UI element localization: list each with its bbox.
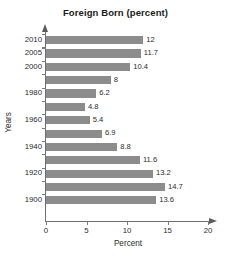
y-axis-tick-mark [42, 61, 46, 62]
x-axis-tick-label: 20 [196, 226, 220, 236]
bar-value-label: 6.9 [105, 128, 116, 138]
bar-row: 11.6 [0, 154, 231, 167]
y-axis-title: Years [4, 101, 13, 145]
x-axis-tick-label: 5 [75, 226, 99, 236]
bar [46, 76, 111, 84]
x-axis-tick-mark [168, 221, 169, 225]
bar-value-label: 8 [114, 75, 118, 85]
y-axis-tick-mark [42, 114, 46, 115]
bar [46, 183, 165, 191]
bar-value-label: 6.2 [99, 88, 110, 98]
y-axis-tick-label: 1900 [25, 195, 42, 205]
x-axis-tick-label: 15 [156, 226, 180, 236]
bar [46, 103, 85, 111]
y-axis-tick-label: 1940 [25, 142, 42, 152]
bar-value-label: 11.6 [143, 155, 157, 165]
bar [46, 170, 153, 178]
y-axis-tick-mark [42, 88, 46, 89]
bar-row: 8 [0, 74, 231, 87]
bar-value-label: 4.8 [88, 102, 99, 112]
y-axis-tick-mark [42, 47, 46, 48]
y-axis-tick-mark [42, 34, 46, 35]
bar [46, 143, 117, 151]
bar [46, 49, 141, 57]
bar-value-label: 12 [146, 35, 154, 45]
y-axis-tick-mark [42, 128, 46, 129]
y-axis-tick-label: 1920 [25, 168, 42, 178]
bar [46, 156, 140, 164]
bar [46, 116, 90, 124]
x-axis-arrow-icon [209, 218, 217, 224]
bar-value-label: 13.6 [159, 195, 174, 205]
x-axis-tick-mark [87, 221, 88, 225]
y-axis-arrow-icon [42, 24, 48, 32]
y-axis-tick-mark [42, 168, 46, 169]
bar [46, 130, 102, 138]
chart-title: Foreign Born (percent) [0, 7, 231, 18]
bar [46, 89, 96, 97]
x-axis-title: Percent [46, 239, 210, 248]
x-axis-tick-mark [208, 221, 209, 225]
y-axis-tick-label: 2000 [25, 62, 42, 72]
bar-value-label: 14.7 [168, 182, 183, 192]
bar [46, 36, 143, 44]
y-axis-tick-mark [42, 194, 46, 195]
x-axis-tick-label: 0 [34, 226, 58, 236]
bar [46, 63, 130, 71]
x-axis-tick-label: 10 [115, 226, 139, 236]
bar-row: 14.7 [0, 180, 231, 193]
y-axis-tick-label: 1980 [25, 88, 42, 98]
y-axis-tick-label: 1960 [25, 115, 42, 125]
bar-value-label: 11.7 [144, 48, 158, 58]
y-axis-tick-mark [42, 141, 46, 142]
y-axis-tick-mark [42, 154, 46, 155]
bar [46, 196, 156, 204]
bar-chart: Foreign Born (percent) 1211.710.486.24.8… [0, 0, 231, 261]
bar-value-label: 5.4 [93, 115, 104, 125]
bar-value-label: 8.8 [120, 142, 131, 152]
y-axis-tick-mark [42, 74, 46, 75]
y-axis-tick-mark [42, 101, 46, 102]
y-axis-tick-label: 2010 [25, 35, 42, 45]
y-axis-tick-mark [42, 181, 46, 182]
bar-value-label: 13.2 [156, 168, 171, 178]
bar-row: 4.8 [0, 100, 231, 113]
bar-row: 6.9 [0, 127, 231, 140]
x-axis-tick-mark [127, 221, 128, 225]
y-axis-tick-label: 2005 [25, 48, 42, 58]
x-axis-tick-mark [46, 221, 47, 225]
bar-value-label: 10.4 [133, 62, 148, 72]
